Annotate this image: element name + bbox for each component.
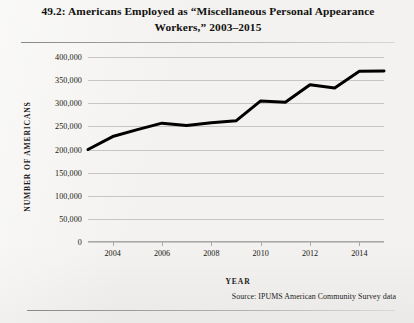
x-axis-tick-mark [310, 242, 311, 246]
x-axis-tick-mark [162, 242, 163, 246]
chart-title: 49.2: Americans Employed as “Miscellaneo… [28, 4, 388, 35]
x-axis-title: YEAR [88, 277, 388, 286]
x-axis-tick-label: 2012 [302, 249, 318, 258]
y-axis-tick-label: 200,000 [55, 145, 88, 154]
y-axis-tick-label: 150,000 [55, 168, 88, 177]
x-axis-tick-label: 2004 [105, 249, 121, 258]
gridline [88, 242, 384, 243]
x-axis-tick-label: 2008 [203, 249, 219, 258]
y-axis-tick-label: 50,000 [59, 214, 88, 223]
x-axis-tick-label: 2006 [154, 249, 170, 258]
y-axis-tick-label: 350,000 [55, 76, 88, 85]
footer-divider [27, 310, 395, 311]
y-axis-tick-label: 0 [78, 238, 88, 247]
plot-area: 050,000100,000150,000200,000250,000300,0… [88, 57, 384, 242]
y-axis-tick-label: 400,000 [55, 53, 88, 62]
x-axis-tick-mark [211, 242, 212, 246]
x-axis-tick-label: 2014 [351, 249, 367, 258]
y-axis-tick-label: 100,000 [55, 191, 88, 200]
y-axis-tick-label: 300,000 [55, 99, 88, 108]
source-note: Source: IPUMS American Community Survey … [0, 292, 396, 301]
x-axis-tick-mark [261, 242, 262, 246]
x-axis-tick-label: 2010 [253, 249, 269, 258]
y-axis-tick-label: 250,000 [55, 122, 88, 131]
data-line-miscellaneous-personal-appearance-workers [88, 57, 384, 242]
y-axis-title: NUMBER OF AMERICANS [23, 92, 32, 222]
x-axis-tick-mark [113, 242, 114, 246]
x-axis-tick-mark [359, 242, 360, 246]
title-divider [21, 42, 395, 43]
figure-chart: 49.2: Americans Employed as “Miscellaneo… [0, 0, 414, 323]
